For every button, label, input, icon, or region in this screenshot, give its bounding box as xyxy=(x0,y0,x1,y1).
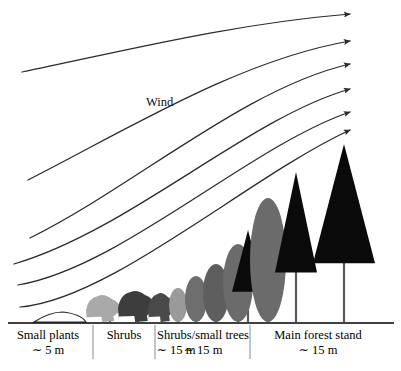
vegetation-group xyxy=(34,144,375,322)
shrub-4 xyxy=(169,288,187,322)
conifer-tall xyxy=(313,144,375,263)
shared-distance-text: ∼ 15 m xyxy=(116,343,236,358)
wind-flow-label: Wind xyxy=(146,95,173,110)
zone-label-main-forest-stand: Main forest stand∼ 15 m xyxy=(238,328,398,358)
shrub-1 xyxy=(86,295,120,322)
streamline-2 xyxy=(28,41,350,180)
streamline-1-top xyxy=(22,14,350,72)
small-plant-mound xyxy=(34,312,86,322)
zone-label-name: Main forest stand xyxy=(238,328,398,343)
zone-label-distance: ∼ 15 m xyxy=(238,343,398,358)
diagram-canvas xyxy=(0,0,401,371)
wind-vegetation-diagram: Wind Small plants∼ 5 mShrubsShrubs/small… xyxy=(0,0,401,371)
shared-distance-label: ∼ 15 m xyxy=(116,343,236,358)
zone-label-distance: ∼ 5 m xyxy=(0,343,128,358)
